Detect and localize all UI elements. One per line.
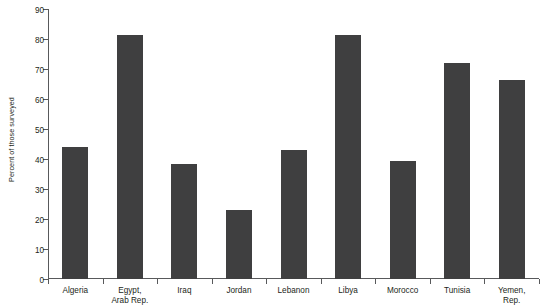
- bar: [62, 147, 88, 279]
- x-tick-mark: [484, 279, 485, 284]
- bar: [226, 210, 252, 279]
- y-tick-label: 70: [35, 65, 44, 74]
- bar: [499, 80, 525, 280]
- x-tick-mark: [266, 279, 267, 284]
- y-tick-label: 60: [35, 95, 44, 104]
- x-tick-label: Morocco: [387, 286, 418, 296]
- x-tick-label: Tunisia: [444, 286, 470, 296]
- y-tick-label: 10: [35, 245, 44, 254]
- x-tick-mark: [321, 279, 322, 284]
- y-tick-label: 20: [35, 215, 44, 224]
- x-tick-label-line: Algeria: [63, 286, 89, 296]
- bar: [117, 35, 143, 280]
- bar: [444, 63, 470, 279]
- x-tick-label: Egypt,Arab Rep.: [111, 286, 148, 305]
- x-tick-mark: [430, 279, 431, 284]
- y-tick-label: 40: [35, 155, 44, 164]
- x-tick-label-line: Yemen,: [498, 286, 525, 296]
- y-tick-label: 90: [35, 5, 44, 14]
- x-tick-label-line: Egypt,: [111, 286, 148, 296]
- x-tick-label: Jordan: [226, 286, 251, 296]
- x-tick-label-line: Arab Rep.: [111, 296, 148, 305]
- x-tick-mark: [48, 279, 49, 284]
- x-tick-label: Algeria: [63, 286, 89, 296]
- x-tick-mark: [103, 279, 104, 284]
- bar: [335, 35, 361, 280]
- bar: [390, 161, 416, 280]
- x-tick-mark: [539, 279, 540, 284]
- y-axis-title-text: Percent of those surveyed: [7, 97, 16, 182]
- plot-area: 9080706050403020100: [48, 9, 539, 279]
- x-axis-group: AlgeriaEgypt,Arab Rep.IraqJordanLebanonL…: [48, 279, 539, 305]
- x-tick-label: Lebanon: [278, 286, 310, 296]
- x-tick-mark: [157, 279, 158, 284]
- bars-group: [48, 9, 539, 279]
- x-tick-mark: [375, 279, 376, 284]
- x-tick-label-line: Rep.: [498, 296, 525, 305]
- y-tick-label: 0: [39, 275, 44, 284]
- x-tick-label-line: Iraq: [177, 286, 191, 296]
- bar-chart: Percent of those surveyed 90807060504030…: [0, 0, 546, 305]
- x-tick-label-line: Lebanon: [278, 286, 310, 296]
- x-tick-label-line: Jordan: [226, 286, 251, 296]
- x-tick-label: Libya: [338, 286, 358, 296]
- x-tick-label-line: Libya: [338, 286, 358, 296]
- x-tick-label-line: Morocco: [387, 286, 418, 296]
- x-tick-label: Iraq: [177, 286, 191, 296]
- x-tick-mark: [212, 279, 213, 284]
- y-axis-title: Percent of those surveyed: [0, 0, 22, 279]
- y-tick-label: 80: [35, 35, 44, 44]
- bar: [281, 150, 307, 279]
- x-tick-label: Yemen,Rep.: [498, 286, 525, 305]
- y-tick-label: 50: [35, 125, 44, 134]
- bar: [171, 164, 197, 280]
- y-tick-label: 30: [35, 185, 44, 194]
- x-tick-label-line: Tunisia: [444, 286, 470, 296]
